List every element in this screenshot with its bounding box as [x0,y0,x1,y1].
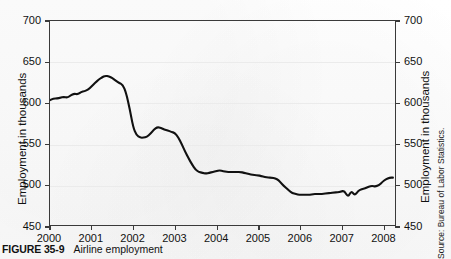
x-tick-mark [300,225,301,230]
x-tick-mark [175,225,176,230]
y-tick-label: 550 [404,138,432,149]
figure-number: FIGURE 35-9 [2,243,65,255]
y-tick-label: 700 [404,15,432,26]
y-tick-label: 450 [404,221,432,232]
y-tick-label: 550 [13,138,41,149]
y-tick-label: 600 [13,97,41,108]
x-tick-mark [217,225,218,230]
figure-caption-text: Airline employment [74,243,163,255]
y-tick-mark [395,144,400,145]
source-note: Source: Bureau of Labor Statistics. [436,128,446,259]
x-tick-mark [384,225,385,230]
y-tick-mark [395,185,400,186]
y-tick-mark [395,103,400,104]
plot-area [49,20,396,226]
series-line-airline-employment [50,76,393,196]
y-tick-label: 650 [404,56,432,67]
y-tick-label: 450 [13,221,41,232]
x-tick-mark [91,225,92,230]
y-tick-mark [395,226,400,227]
line-chart-svg [50,21,395,225]
y-tick-mark [395,62,400,63]
y-tick-label: 500 [404,179,432,190]
x-tick-mark [49,225,50,230]
y-tick-label: 650 [13,56,41,67]
x-tick-label: 2008 [366,233,402,244]
y-tick-label: 700 [13,15,41,26]
x-tick-label: 2004 [198,233,234,244]
x-tick-label: 2005 [240,233,276,244]
x-tick-mark [258,225,259,230]
y-tick-label: 500 [13,179,41,190]
y-tick-mark [395,20,400,21]
x-tick-label: 2006 [282,233,318,244]
y-tick-label: 600 [404,97,432,108]
figure-container: Employment in thousands Employment in th… [0,0,451,259]
x-tick-mark [133,225,134,230]
x-tick-mark [342,225,343,230]
figure-caption: FIGURE 35-9Airline employment [2,243,163,255]
x-tick-label: 2007 [324,233,360,244]
